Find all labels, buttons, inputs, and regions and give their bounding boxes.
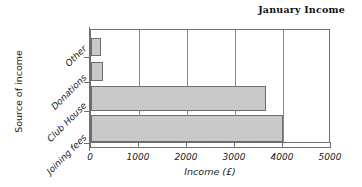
- x-tick-label-2000: 2000: [175, 152, 198, 162]
- x-tick-label-5000: 5000: [319, 152, 342, 162]
- y-axis-line: [89, 27, 90, 151]
- x-tick-5000: [330, 142, 331, 148]
- x-axis-line: [90, 147, 330, 148]
- x-axis-title: Income (£): [90, 166, 330, 177]
- plot-area: [90, 29, 330, 143]
- bar-chart: January Income Source of income Other Do…: [0, 0, 362, 187]
- x-tick-label-4000: 4000: [271, 152, 294, 162]
- x-tick-0: [90, 142, 91, 148]
- x-tick-label-3000: 3000: [223, 152, 246, 162]
- x-tick-2000: [186, 142, 187, 148]
- x-tick-label-0: 0: [87, 152, 93, 162]
- bar-donations: [91, 62, 103, 81]
- bar-other: [91, 38, 101, 56]
- gridline-4000: [283, 30, 284, 142]
- bar-club-house: [91, 86, 266, 111]
- y-axis-title: Source of income: [13, 32, 24, 152]
- bar-joining-fees: [91, 115, 283, 142]
- chart-title: January Income: [0, 4, 345, 15]
- y-tick-other: [84, 57, 90, 58]
- x-tick-label-1000: 1000: [127, 152, 150, 162]
- x-tick-1000: [138, 142, 139, 148]
- x-tick-4000: [282, 142, 283, 148]
- x-tick-3000: [234, 142, 235, 148]
